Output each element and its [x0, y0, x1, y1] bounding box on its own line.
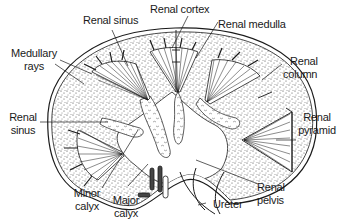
- label-minor-calyx: Minor calyx: [70, 188, 104, 212]
- kidney-diagram: Renal sinus Renal cortex Renal medulla M…: [0, 0, 339, 224]
- label-renal-sinus-left: Renal sinus: [7, 112, 39, 136]
- label-renal-column: Renal column: [283, 56, 318, 80]
- label-renal-pelvis: Renal pelvis: [257, 182, 285, 206]
- kidney-illustration: [0, 0, 339, 224]
- label-renal-sinus-top: Renal sinus: [83, 15, 138, 26]
- label-renal-cortex: Renal cortex: [150, 4, 209, 15]
- label-major-calyx: Major calyx: [109, 195, 143, 219]
- label-renal-pyramid: Renal pyramid: [295, 112, 339, 136]
- label-ureter: Ureter: [213, 199, 242, 210]
- label-renal-medulla: Renal medulla: [218, 19, 286, 30]
- label-medullary-rays: Medullary rays: [9, 48, 59, 72]
